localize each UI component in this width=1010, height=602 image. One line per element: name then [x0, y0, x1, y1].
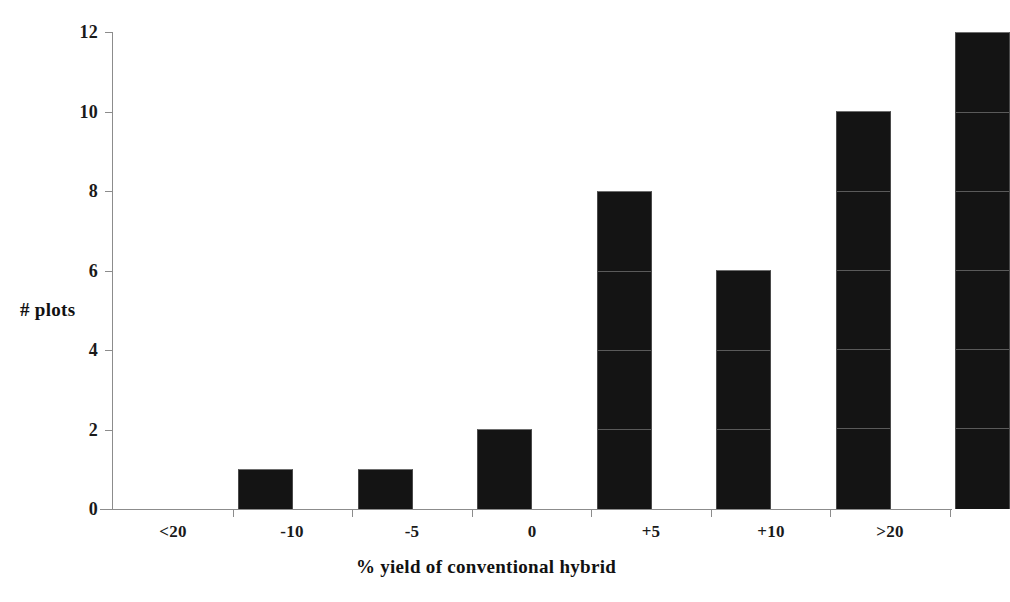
- x-axis-tick: [830, 509, 831, 517]
- y-axis-tick: [105, 32, 112, 33]
- plot-area: [113, 32, 950, 509]
- bar-scanline: [837, 191, 890, 192]
- x-axis-tick-label: 0: [487, 523, 577, 542]
- bar: [836, 111, 891, 509]
- bar: [477, 429, 532, 509]
- bar-scanline: [717, 350, 770, 351]
- bar: [716, 270, 771, 509]
- bar-scanline: [837, 270, 890, 271]
- y-axis-title: # plots: [20, 299, 75, 321]
- bar-scanline: [598, 350, 651, 351]
- y-axis-tick: [105, 430, 112, 431]
- y-axis-tick-label: 4: [52, 341, 98, 359]
- x-axis-tick: [352, 509, 353, 517]
- bar-scanline: [956, 428, 1009, 429]
- x-axis-tick: [950, 509, 951, 517]
- x-axis-tick-label: +10: [726, 523, 816, 542]
- x-axis-tick: [711, 509, 712, 517]
- x-axis-title: % yield of conventional hybrid: [0, 556, 972, 578]
- x-axis-tick: [233, 509, 234, 517]
- y-axis-tick: [105, 509, 112, 510]
- y-axis-tick-label: 6: [52, 262, 98, 280]
- bar-scanline: [956, 349, 1009, 350]
- x-axis-line: [100, 509, 952, 510]
- y-axis-tick: [105, 271, 112, 272]
- bar-scanline: [837, 349, 890, 350]
- bar-scanline: [717, 429, 770, 430]
- x-axis-tick-label: +5: [606, 523, 696, 542]
- y-axis-tick: [105, 350, 112, 351]
- y-axis-tick: [105, 191, 112, 192]
- x-axis-tick-label: -10: [247, 523, 337, 542]
- bar: [597, 191, 652, 509]
- y-axis-tick-label: 10: [52, 103, 98, 121]
- bar: [955, 32, 1010, 509]
- x-axis-tick: [472, 509, 473, 517]
- y-axis-tick-label: 2: [52, 421, 98, 439]
- bar-scanline: [598, 429, 651, 430]
- y-axis-tick-label: 8: [52, 182, 98, 200]
- x-axis-tick-label: >20: [845, 523, 935, 542]
- bar-scanline: [837, 428, 890, 429]
- bar-scanline: [956, 191, 1009, 192]
- bar: [238, 469, 293, 509]
- bar-scanline: [956, 270, 1009, 271]
- bar-scanline: [598, 271, 651, 272]
- y-axis-tick: [105, 112, 112, 113]
- bar: [358, 469, 413, 509]
- x-axis-tick-label: <20: [128, 523, 218, 542]
- bar-scanline: [956, 112, 1009, 113]
- x-axis-tick-label: -5: [367, 523, 457, 542]
- y-axis-tick-label: 12: [52, 23, 98, 41]
- y-axis-tick-label: 0: [52, 500, 98, 518]
- x-axis-tick: [591, 509, 592, 517]
